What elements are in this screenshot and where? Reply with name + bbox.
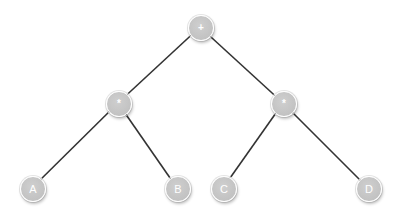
expression-tree-diagram: + * * A B C D	[0, 0, 402, 224]
node-multiply-left[interactable]: *	[106, 91, 132, 117]
edge-root-to-mul-left	[118, 27, 200, 103]
edge-mul-right-to-c	[223, 103, 283, 188]
edge-mul-left-to-b	[118, 103, 177, 188]
edge-mul-right-to-d	[283, 103, 368, 188]
node-root-plus[interactable]: +	[188, 15, 214, 41]
node-leaf-d[interactable]: D	[356, 176, 382, 202]
edge-root-to-mul-right	[200, 27, 283, 103]
node-multiply-right[interactable]: *	[271, 91, 297, 117]
node-leaf-c[interactable]: C	[211, 176, 237, 202]
edge-mul-left-to-a	[32, 103, 118, 188]
node-leaf-b[interactable]: B	[165, 176, 191, 202]
node-leaf-a[interactable]: A	[20, 176, 46, 202]
